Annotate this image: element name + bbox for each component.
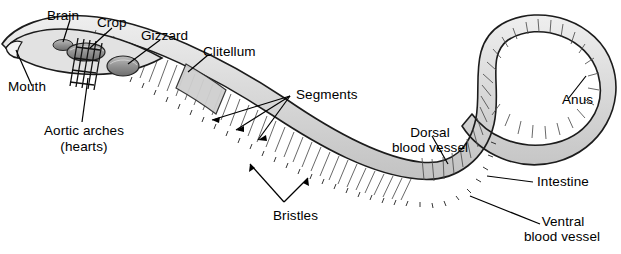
leader-intestine — [487, 176, 533, 182]
label-dorsal-blood-vessel-line2: blood vessel — [375, 140, 485, 155]
label-intestine: Intestine — [537, 174, 589, 189]
label-dorsal-blood-vessel-line1: Dorsal — [375, 125, 485, 140]
leader-bristles-a — [250, 164, 284, 202]
label-segments: Segments — [296, 87, 358, 102]
label-ventral-blood-vessel-line1: Ventral — [508, 214, 618, 229]
label-ventral-blood-vessel-line2: blood vessel — [503, 229, 621, 244]
label-gizzard: Gizzard — [141, 28, 188, 43]
earthworm-anatomy-figure: Brain Crop Gizzard Clitellum Segments Mo… — [0, 0, 621, 254]
label-brain: Brain — [47, 8, 79, 23]
label-clitellum: Clitellum — [203, 44, 256, 59]
label-aortic-arches-line1: Aortic arches — [24, 123, 144, 138]
label-anus: Anus — [562, 92, 593, 107]
label-mouth: Mouth — [8, 79, 46, 94]
label-aortic-arches-line2: (hearts) — [24, 139, 144, 154]
label-bristles: Bristles — [273, 208, 318, 223]
label-crop: Crop — [97, 15, 127, 30]
